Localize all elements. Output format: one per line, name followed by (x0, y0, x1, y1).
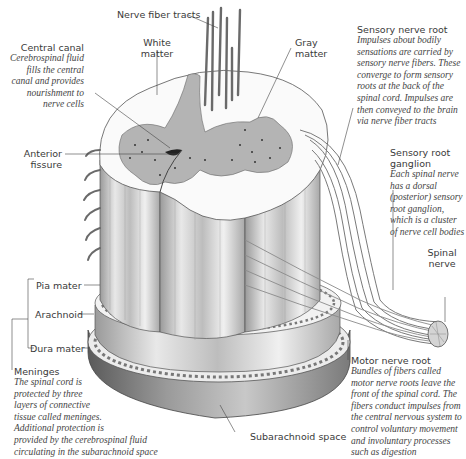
anterior-fissure-line1: Anterior (0, 148, 62, 159)
desc-line: nerve cells (0, 99, 84, 111)
white-matter-line1: White (134, 37, 180, 48)
label-pia-mater: Pia mater (36, 280, 82, 291)
desc-line: Cerebrospinal fluid (0, 53, 84, 65)
desc-line: which is a cluster (390, 215, 466, 227)
desc-line: protected by three (14, 389, 194, 401)
desc-line: Additional protection is (14, 423, 194, 435)
desc-meninges: The spinal cord is protected by three la… (14, 377, 194, 458)
white-matter-line2: matter (134, 48, 180, 59)
label-arachnoid: Arachnoid (35, 309, 83, 320)
label-sensory-nerve-root: Sensory nerve root (357, 24, 448, 35)
desc-line: (posterior) sensory (390, 192, 466, 204)
label-gray-matter: Gray matter (295, 37, 327, 59)
desc-line: sensory nerve fibers. These (357, 58, 466, 70)
desc-sensory-nerve-root: Impulses about bodily sensations are car… (357, 35, 466, 128)
label-anterior-fissure: Anterior fissure (0, 148, 62, 170)
desc-line: spinal cord. Impulses are (357, 93, 466, 105)
desc-line: roots at the back of the (357, 81, 466, 93)
spinal-nerve-line1: Spinal (420, 247, 464, 258)
desc-line: Each spinal nerve (390, 169, 466, 181)
desc-line: control voluntary movement (351, 424, 466, 436)
desc-line: front of the spinal cord. The (351, 389, 466, 401)
desc-line: The spinal cord is (14, 377, 194, 389)
desc-line: motor nerve roots leave the (351, 378, 466, 390)
desc-line: converge to form sensory (357, 70, 466, 82)
ganglion-line1: Sensory root (390, 147, 450, 158)
anterior-fissure-line2: fissure (0, 159, 62, 170)
desc-line: the central nervous system to (351, 412, 466, 424)
desc-line: fibers conduct impulses from (351, 401, 466, 413)
desc-line: Impulses about bodily (357, 35, 466, 47)
desc-line: canal and provides (0, 76, 84, 88)
desc-motor-nerve-root: Bundles of fibers called motor nerve roo… (351, 366, 466, 459)
gray-matter-line2: matter (295, 48, 327, 59)
desc-line: provided by the cerebrospinal fluid (14, 435, 194, 447)
desc-line: circulating in the subarachnoid space (14, 447, 194, 459)
desc-line: nourishment to (0, 88, 84, 100)
desc-line: layers of connective (14, 400, 194, 412)
desc-line: root ganglion, (390, 204, 466, 216)
gray-matter-line1: Gray (295, 37, 327, 48)
label-spinal-nerve: Spinal nerve (420, 247, 464, 269)
spinal-nerve-line2: nerve (420, 258, 464, 269)
label-dura-mater: Dura mater (30, 343, 85, 354)
desc-line: of nerve cell bodies (390, 227, 466, 239)
desc-line: via nerve fiber tracts (357, 116, 466, 128)
desc-line: tissue called meninges. (14, 412, 194, 424)
label-white-matter: White matter (134, 37, 180, 59)
label-meninges: Meninges (14, 366, 60, 377)
label-nerve-fiber-tracts: Nerve fiber tracts (117, 9, 200, 20)
desc-line: has a dorsal (390, 181, 466, 193)
label-motor-nerve-root: Motor nerve root (351, 355, 431, 366)
desc-sensory-root-ganglion: Each spinal nerve has a dorsal (posterio… (390, 169, 466, 239)
left-nerve-roots (84, 150, 100, 260)
desc-line: such as digestion (351, 447, 466, 459)
label-subarachnoid-space: Subarachnoid space (250, 431, 346, 442)
desc-line: and involuntary processes (351, 436, 466, 448)
desc-central-canal: Cerebrospinal fluid fills the central ca… (0, 53, 84, 111)
ganglion-line2: ganglion (390, 158, 450, 169)
desc-line: then conveyed to the brain (357, 105, 466, 117)
desc-line: Bundles of fibers called (351, 366, 466, 378)
desc-line: fills the central (0, 65, 84, 77)
label-sensory-root-ganglion: Sensory root ganglion (390, 147, 450, 169)
desc-line: sensations are carried by (357, 47, 466, 59)
label-central-canal: Central canal (0, 42, 84, 53)
